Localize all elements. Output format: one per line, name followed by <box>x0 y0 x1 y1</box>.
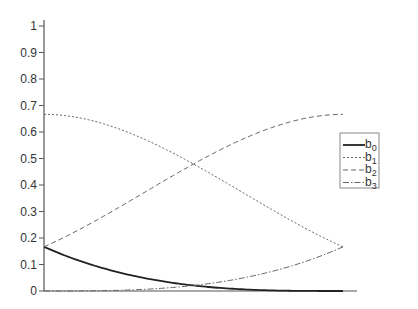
axes: 00.10.20.30.40.50.60.70.80.91 <box>20 19 357 298</box>
y-tick-label: 0 <box>30 284 37 298</box>
y-tick-label: 0.2 <box>20 231 37 245</box>
y-tick-label: 0.6 <box>20 125 37 139</box>
legend: b0b1b2b3 <box>340 133 379 191</box>
plot-area <box>44 114 343 291</box>
y-ticks: 00.10.20.30.40.50.60.70.80.91 <box>20 19 44 298</box>
y-tick-label: 0.9 <box>20 46 37 60</box>
y-tick-label: 1 <box>30 19 37 33</box>
series-b2 <box>44 114 343 247</box>
y-tick-label: 0.8 <box>20 72 37 86</box>
y-tick-label: 0.7 <box>20 99 37 113</box>
series-b0 <box>44 247 343 291</box>
series-b1 <box>44 114 343 247</box>
y-tick-label: 0.3 <box>20 205 37 219</box>
y-tick-label: 0.5 <box>20 152 37 166</box>
y-tick-label: 0.4 <box>20 178 37 192</box>
chart: 00.10.20.30.40.50.60.70.80.91 b0b1b2b3 <box>0 0 418 309</box>
series-b3 <box>44 247 343 291</box>
y-tick-label: 0.1 <box>20 258 37 272</box>
